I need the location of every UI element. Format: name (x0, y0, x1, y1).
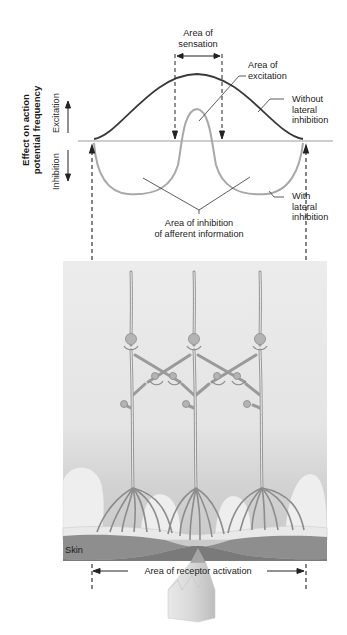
label-without-lateral-inhibition: Without lateral inhibition (292, 94, 328, 126)
label-area-of-sensation: Area of sensation (168, 28, 228, 49)
sensation-markers (173, 54, 225, 140)
y-axis-down-label: Inhibition (51, 153, 61, 190)
label-area-of-inhibition: Area of inhibition of afferent informati… (139, 218, 259, 239)
label-skin: Skin (65, 545, 83, 556)
y-axis-title-line1: Effect on action (20, 70, 31, 190)
label-area-of-receptor-activation: Area of receptor activation (128, 566, 268, 577)
label-area-of-excitation: Area of excitation (248, 60, 287, 81)
curve-without-lateral-inhibition (94, 74, 303, 139)
curve-with-lateral-inhibition (94, 109, 303, 194)
label-with-lateral-inhibition: With lateral inhibition (292, 191, 328, 223)
y-axis-up-label: Excitation (51, 93, 61, 133)
y-axis-title-line2: potential frequency (31, 70, 42, 190)
axis-arrows (66, 101, 71, 181)
y-axis-title: Effect on action potential frequency (20, 70, 42, 190)
